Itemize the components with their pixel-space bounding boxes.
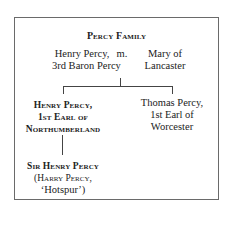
- sibling-line: [63, 86, 173, 87]
- mother-name: Mary of Lancaster: [140, 48, 190, 72]
- child-2-line-3: Worcester: [137, 121, 207, 133]
- child-thomas-percy: Thomas Percy, 1st Earl of Worcester: [137, 97, 207, 133]
- child-1-line-2: 1st Earl of: [22, 111, 104, 123]
- mother-line-1: Mary of: [140, 48, 190, 60]
- grandchild-line-1: Sir Henry Percy: [20, 160, 106, 172]
- grandchild-line-3: ‘Hotspur’): [20, 184, 106, 196]
- father-line-1: Henry Percy,: [52, 48, 112, 60]
- mother-line-2: Lancaster: [140, 60, 190, 72]
- marriage-label: m.: [114, 48, 130, 60]
- father-line-2: 3rd Baron Percy: [52, 60, 112, 72]
- child-2-line-1: Thomas Percy,: [137, 97, 207, 109]
- father-name: Henry Percy, 3rd Baron Percy: [52, 48, 112, 72]
- grandchild-hotspur: Sir Henry Percy (Harry Percy, ‘Hotspur’): [20, 160, 106, 196]
- child-left-line: [63, 86, 64, 94]
- grandchild-line: [62, 135, 63, 155]
- child-2-line-2: 1st Earl of: [137, 109, 207, 121]
- child-right-line: [172, 86, 173, 94]
- tree-title: Percy Family: [0, 30, 233, 42]
- child-1-line-1: Henry Percy,: [22, 99, 104, 111]
- child-1-line-3: Northumberland: [22, 123, 104, 135]
- grandchild-line-2: (Harry Percy,: [20, 172, 106, 184]
- child-henry-percy: Henry Percy, 1st Earl of Northumberland: [22, 99, 104, 135]
